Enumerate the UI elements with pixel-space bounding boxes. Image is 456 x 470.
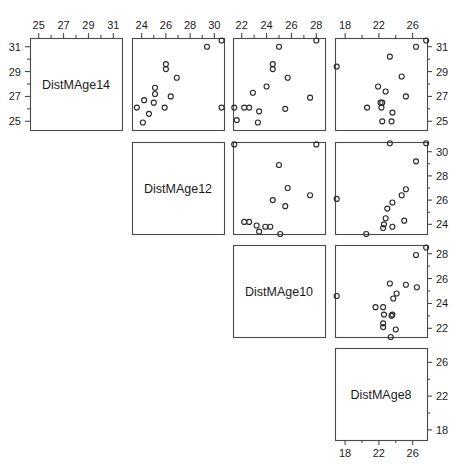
panel-label-distmage8: DistMAge8 xyxy=(350,388,411,402)
axis-tick-label: 24 xyxy=(436,297,448,309)
axis-tick-label: 22 xyxy=(373,19,385,31)
scatter-panel-r0-c2 xyxy=(234,39,326,131)
axis-tick-label: 26 xyxy=(285,19,297,31)
axis-tick-label: 22 xyxy=(373,447,385,459)
axis-tick-label: 26 xyxy=(436,356,448,368)
axis-tick-label: 22 xyxy=(436,390,448,402)
axis-tick-label: 29 xyxy=(82,19,94,31)
axis-tick-label: 28 xyxy=(310,19,322,31)
axis-tick-label: 18 xyxy=(436,424,448,436)
axis-tick-label: 18 xyxy=(339,447,351,459)
scatterplot-matrix: 2527293125272931242628302224262818222625… xyxy=(0,0,456,470)
axis-tick-label: 27 xyxy=(9,90,21,102)
axis-tick-label: 18 xyxy=(339,19,351,31)
panel-label-distmage12: DistMAge12 xyxy=(144,182,212,196)
axis-tick-label: 25 xyxy=(436,115,448,127)
panel-label-distmage14: DistMAge14 xyxy=(42,78,110,92)
axis-tick-label: 29 xyxy=(436,66,448,78)
axis-tick-label: 22 xyxy=(236,19,248,31)
panel-label-distmage10: DistMAge10 xyxy=(245,285,313,299)
axis-tick-label: 26 xyxy=(436,273,448,285)
axis-tick-label: 28 xyxy=(436,170,448,182)
axis-tick-label: 31 xyxy=(107,19,119,31)
axis-tick-label: 26 xyxy=(436,194,448,206)
axis-tick-label: 26 xyxy=(407,19,419,31)
axis-tick-label: 26 xyxy=(407,447,419,459)
axis-tick-label: 24 xyxy=(136,19,148,31)
axis-tick-label: 29 xyxy=(9,66,21,78)
axis-tick-label: 26 xyxy=(160,19,172,31)
axis-tick-label: 27 xyxy=(57,19,69,31)
axis-tick-label: 28 xyxy=(436,248,448,260)
axis-tick-label: 30 xyxy=(436,146,448,158)
axis-tick-label: 31 xyxy=(9,41,21,53)
axis-tick-label: 24 xyxy=(260,19,272,31)
panels-layer xyxy=(31,39,428,441)
scatter-panel-r0-c3 xyxy=(336,39,428,131)
axis-tick-label: 31 xyxy=(436,41,448,53)
scatter-panel-r1-c3 xyxy=(336,143,428,235)
axis-tick-label: 30 xyxy=(208,19,220,31)
scatter-panel-r0-c1 xyxy=(133,39,225,131)
axis-tick-label: 25 xyxy=(33,19,45,31)
scatter-panel-r2-c3 xyxy=(336,246,428,338)
axis-tick-label: 28 xyxy=(184,19,196,31)
axis-tick-label: 24 xyxy=(436,218,448,230)
axis-tick-label: 25 xyxy=(9,115,21,127)
axis-tick-label: 22 xyxy=(436,322,448,334)
axis-tick-label: 27 xyxy=(436,90,448,102)
